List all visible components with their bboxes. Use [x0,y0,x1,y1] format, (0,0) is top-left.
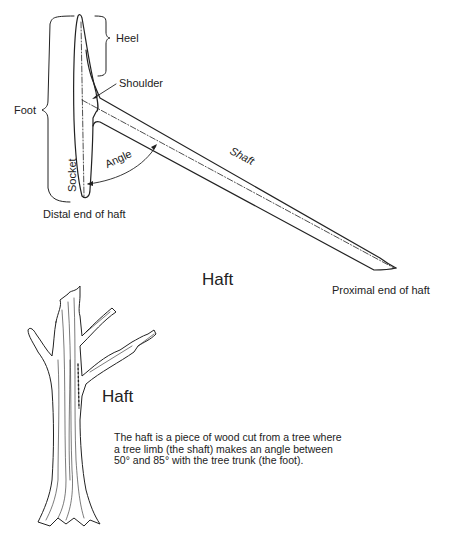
label-shoulder: Shoulder [119,77,163,89]
heel-brace [95,16,110,76]
label-foot: Foot [14,104,36,116]
shaft-lower-edge [93,122,396,270]
label-socket: Socket [66,158,78,192]
label-proximal-end: Proximal end of haft [332,284,430,296]
tree-haft-label: Haft [102,387,133,407]
foot-centerline [81,22,84,196]
caption-line-3: 50° and 85° with the tree trunk (the foo… [114,454,303,466]
tree-caption: The haft is a piece of wood cut from a t… [114,432,342,467]
angle-arrow-right [151,144,157,150]
shaft-centerline [82,100,394,268]
tree-illustration [28,286,156,526]
haft-cut-line [78,364,79,408]
caption-line-2: a tree limb (the shaft) makes an angle b… [114,443,333,455]
label-distal-end: Distal end of haft [43,208,126,220]
diagram-title: Haft [202,270,233,290]
label-heel: Heel [116,32,139,44]
caption-line-1: The haft is a piece of wood cut from a t… [114,431,342,443]
